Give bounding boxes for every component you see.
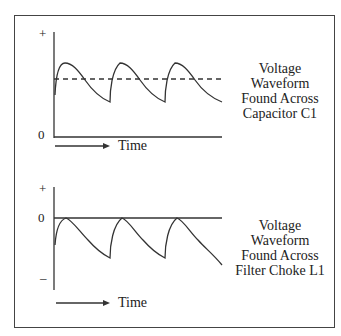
caption-line: Found Across (232, 91, 328, 106)
caption-line: Filter Choke L1 (228, 263, 332, 278)
choke-chart (54, 187, 222, 306)
capacitor-chart (54, 32, 222, 149)
y-label-minus: – (40, 270, 47, 286)
y-label-plus: + (39, 181, 46, 197)
caption-line: Found Across (228, 248, 332, 263)
x-axis-label: Time (118, 138, 147, 154)
arrowhead-icon (103, 300, 110, 306)
capacitor-waveform (55, 63, 222, 102)
y-label-plus: + (39, 26, 46, 42)
waveform-graphics (0, 0, 341, 336)
choke-caption: Voltage Waveform Found Across Filter Cho… (228, 218, 332, 278)
choke-waveform (55, 218, 222, 265)
caption-line: Waveform (232, 76, 328, 91)
capacitor-caption: Voltage Waveform Found Across Capacitor … (232, 61, 328, 121)
arrowhead-icon (103, 143, 110, 149)
caption-line: Voltage (228, 218, 332, 233)
caption-line: Waveform (228, 233, 332, 248)
y-label-zero: 0 (38, 210, 45, 226)
y-label-zero: 0 (38, 127, 45, 143)
caption-line: Capacitor C1 (232, 106, 328, 121)
caption-line: Voltage (232, 61, 328, 76)
x-axis-label: Time (118, 295, 147, 311)
